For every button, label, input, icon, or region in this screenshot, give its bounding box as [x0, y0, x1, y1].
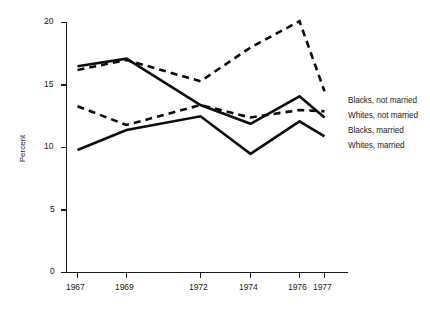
x-tick-label-1976: 1976: [288, 282, 307, 292]
x-tick-label-1967: 1967: [66, 282, 85, 292]
y-tick-label-20: 20: [44, 16, 53, 26]
y-tick-label-5: 5: [50, 204, 55, 214]
series-line-blacks-married: [78, 59, 325, 124]
legend-entry-whites-not-married: Whites, not married: [348, 111, 430, 126]
x-axis-ticks: [78, 273, 325, 279]
x-tick-label-1974: 1974: [239, 282, 258, 292]
y-axis-label: Percent: [18, 125, 27, 173]
x-tick-label-1977: 1977: [313, 282, 332, 292]
y-axis-label-wrapper: Percent: [14, 128, 28, 188]
series-line-blacks-not-married: [78, 21, 325, 91]
y-tick-label-10: 10: [44, 141, 53, 151]
series-line-whites-married: [78, 116, 325, 154]
series-line-whites-not-married: [78, 105, 325, 125]
legend-entry-blacks-not-married: Blacks, not married: [348, 96, 430, 111]
x-tick-label-1969: 1969: [115, 282, 134, 292]
y-tick-label-15: 15: [44, 79, 53, 89]
x-tick-label-1972: 1972: [189, 282, 208, 292]
axes-group: [67, 22, 349, 273]
legend-entry-blacks-married: Blacks, married: [348, 126, 430, 141]
y-axis-ticks: [61, 23, 67, 273]
legend-entry-whites-married: Whites, married: [348, 141, 430, 156]
y-tick-label-0: 0: [50, 266, 55, 276]
chart-figure: 20 15 10 5 0 1967 1969 1972 1974 1976 19…: [0, 0, 430, 309]
chart-legend: Blacks, not married Whites, not married …: [348, 96, 430, 156]
series-group: [78, 21, 325, 154]
